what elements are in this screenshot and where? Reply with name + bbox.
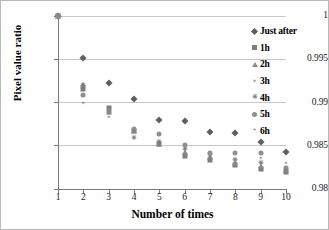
x-tick-label: 2 [71, 193, 95, 203]
gridline [58, 145, 286, 146]
legend-item-label: 6h [260, 126, 270, 136]
y-tick-label: 0.985 [276, 141, 328, 151]
legend-marker-swatch: ✳ [249, 92, 260, 103]
legend-marker-swatch [249, 42, 260, 53]
y-axis-title: Pixel value ratio [11, 3, 23, 123]
legend-item-1h[interactable]: 1h [249, 40, 327, 57]
legend-item-label: Just after [260, 26, 297, 36]
legend-marker-swatch [249, 59, 260, 70]
y-tick-mark [54, 16, 58, 17]
x-tick-label: 10 [274, 193, 298, 203]
legend-marker-swatch [249, 26, 260, 37]
x-tick-label: 7 [198, 193, 222, 203]
legend-item-label: 3h [260, 76, 270, 86]
chart-legend: Just after1h2h×3h✳4h5h+6h [249, 23, 327, 139]
y-tick-mark [54, 102, 58, 103]
legend-item-label: 5h [260, 109, 270, 119]
x-tick-label: 9 [249, 193, 273, 203]
legend-item-2h[interactable]: 2h [249, 56, 327, 73]
legend-item-just-after[interactable]: Just after [249, 23, 327, 40]
diamond-marker-icon [251, 28, 258, 35]
x-tick-label: 3 [97, 193, 121, 203]
gridline [58, 16, 286, 17]
x-tick-label: 1 [46, 193, 70, 203]
circle-marker-icon [252, 112, 257, 117]
x-tick-label: 4 [122, 193, 146, 203]
legend-marker-swatch: + [249, 125, 260, 136]
triangle-marker-icon [252, 62, 258, 67]
legend-marker-swatch: × [249, 76, 260, 87]
plus-marker-icon: + [251, 127, 258, 134]
legend-item-label: 2h [260, 59, 270, 69]
x-tick-label: 6 [173, 193, 197, 203]
star-marker-icon: ✳ [251, 94, 258, 101]
square-marker-icon [252, 45, 257, 50]
legend-marker-swatch [249, 109, 260, 120]
y-tick-mark [54, 145, 58, 146]
y-tick-mark [54, 59, 58, 60]
legend-item-5h[interactable]: 5h [249, 106, 327, 123]
x-axis-title: Number of times [58, 208, 287, 220]
legend-item-6h[interactable]: +6h [249, 123, 327, 140]
y-axis-line [58, 14, 59, 191]
y-tick-label: 1 [276, 11, 328, 21]
x-tick-label: 8 [223, 193, 247, 203]
x-axis-line [58, 189, 287, 190]
legend-item-label: 1h [260, 43, 270, 53]
x-tick-label: 5 [147, 193, 171, 203]
scatter-chart-figure: 0.980.9850.990.9951 12345678910 ××××××××… [0, 0, 329, 230]
legend-item-label: 4h [260, 93, 270, 103]
cross-marker-icon: × [251, 78, 258, 85]
legend-item-3h[interactable]: ×3h [249, 73, 327, 90]
legend-item-4h[interactable]: ✳4h [249, 89, 327, 106]
